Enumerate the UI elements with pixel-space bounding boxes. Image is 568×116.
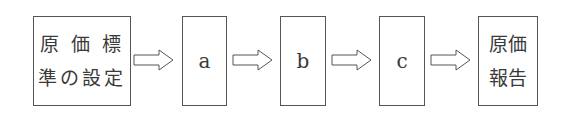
node-start-line-2: 準の設定 xyxy=(38,61,126,95)
node-a-label: a xyxy=(199,49,211,73)
arrow-right-icon xyxy=(331,49,372,71)
node-end-line-2: 報告 xyxy=(489,61,527,95)
arrow-right-icon xyxy=(133,49,174,71)
node-cost-report: 原価 報告 xyxy=(478,16,538,106)
node-c: c xyxy=(379,16,425,106)
node-a: a xyxy=(182,16,227,106)
node-b: b xyxy=(280,16,326,106)
node-standard-cost-setting: 原 価 標 準の設定 xyxy=(33,16,131,106)
node-b-label: b xyxy=(297,49,310,73)
arrow-right-icon xyxy=(430,49,471,71)
node-c-label: c xyxy=(396,49,407,73)
node-end-line-1: 原価 xyxy=(489,27,527,61)
arrow-right-icon xyxy=(232,49,273,71)
node-start-line-1: 原 価 標 xyxy=(40,27,124,61)
